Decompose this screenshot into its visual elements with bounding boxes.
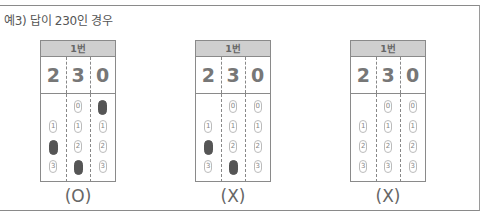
omr-card: 1번23012301230123 — [40, 40, 116, 182]
answer-digit: 3 — [66, 57, 91, 93]
card-header: 1번 — [196, 41, 270, 57]
omr-card: 1번23012301230123 — [195, 40, 271, 182]
bubble-grid: 12301230123 — [41, 94, 115, 182]
column-divider — [90, 57, 91, 93]
bubble-column: 0123 — [245, 94, 270, 182]
filled-bubble[interactable]: 2 — [204, 140, 213, 155]
column-divider — [245, 94, 246, 182]
answer-bubble[interactable]: 0 — [409, 100, 417, 113]
answer-digit: 0 — [90, 57, 115, 93]
filled-bubble[interactable]: 2 — [49, 140, 58, 155]
column-divider — [221, 57, 222, 93]
column-divider — [245, 57, 246, 93]
column-divider — [66, 94, 67, 182]
bubble-column: 123 — [196, 94, 221, 182]
answer-bubble[interactable]: 1 — [204, 120, 212, 133]
answer-bubble[interactable]: 3 — [359, 160, 367, 173]
column-divider — [90, 94, 91, 182]
answer-bubble[interactable]: 1 — [99, 120, 107, 133]
answer-digit: 0 — [400, 57, 425, 93]
verdict-mark: (X) — [195, 186, 271, 206]
verdict-mark: (X) — [350, 186, 426, 206]
answer-bubble[interactable]: 2 — [384, 140, 392, 153]
bubble-grid: 12301230123 — [196, 94, 270, 182]
answer-bubble[interactable]: 1 — [254, 120, 262, 133]
answer-digits-row: 230 — [196, 57, 270, 94]
column-divider — [376, 57, 377, 93]
card-header: 1번 — [351, 41, 425, 57]
column-divider — [66, 57, 67, 93]
example-title: 예3) 답이 230인 경우 — [4, 11, 112, 28]
answer-digit: 2 — [351, 57, 376, 93]
bubble-column: 123 — [41, 94, 66, 182]
answer-bubble[interactable]: 0 — [384, 100, 392, 113]
answer-digits-row: 230 — [41, 57, 115, 94]
column-divider — [400, 57, 401, 93]
answer-bubble[interactable]: 2 — [74, 140, 82, 153]
column-divider — [400, 94, 401, 182]
bubble-column: 0123 — [400, 94, 425, 182]
filled-bubble[interactable]: 3 — [229, 160, 238, 175]
bubble-column: 0123 — [90, 94, 115, 182]
answer-bubble[interactable]: 1 — [49, 120, 57, 133]
answer-bubble[interactable]: 3 — [204, 160, 212, 173]
answer-digit: 0 — [245, 57, 270, 93]
answer-bubble[interactable]: 3 — [384, 160, 392, 173]
column-divider — [376, 94, 377, 182]
answer-digit: 2 — [196, 57, 221, 93]
answer-bubble[interactable]: 2 — [229, 140, 237, 153]
answer-bubble[interactable]: 3 — [409, 160, 417, 173]
answer-bubble[interactable]: 1 — [359, 120, 367, 133]
answer-bubble[interactable]: 2 — [409, 140, 417, 153]
answer-bubble[interactable]: 0 — [229, 100, 237, 113]
answer-digit: 3 — [221, 57, 246, 93]
answer-bubble[interactable]: 3 — [254, 160, 262, 173]
omr-card: 1번23012301230123 — [350, 40, 426, 182]
answer-bubble[interactable]: 0 — [74, 100, 82, 113]
card-header: 1번 — [41, 41, 115, 57]
bubble-column: 0123 — [221, 94, 246, 182]
answer-bubble[interactable]: 1 — [409, 120, 417, 133]
answer-bubble[interactable]: 3 — [49, 160, 57, 173]
answer-bubble[interactable]: 3 — [99, 160, 107, 173]
answer-digits-row: 230 — [351, 57, 425, 94]
bubble-grid: 12301230123 — [351, 94, 425, 182]
bubble-column: 123 — [351, 94, 376, 182]
bubble-column: 0123 — [376, 94, 401, 182]
answer-bubble[interactable]: 0 — [254, 100, 262, 113]
answer-bubble[interactable]: 2 — [254, 140, 262, 153]
filled-bubble[interactable]: 0 — [98, 100, 107, 115]
filled-bubble[interactable]: 3 — [74, 160, 83, 175]
answer-bubble[interactable]: 2 — [99, 140, 107, 153]
answer-bubble[interactable]: 1 — [384, 120, 392, 133]
bubble-column: 0123 — [66, 94, 91, 182]
answer-bubble[interactable]: 2 — [359, 140, 367, 153]
answer-bubble[interactable]: 1 — [74, 120, 82, 133]
answer-bubble[interactable]: 1 — [229, 120, 237, 133]
answer-digit: 2 — [41, 57, 66, 93]
verdict-mark: (O) — [40, 186, 116, 206]
column-divider — [221, 94, 222, 182]
answer-digit: 3 — [376, 57, 401, 93]
